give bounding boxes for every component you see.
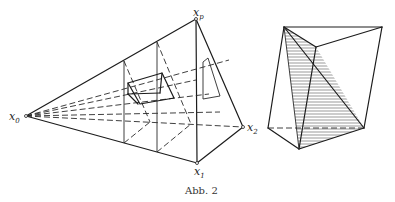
edge-x1-x2 [197, 127, 243, 163]
edge-right [364, 27, 382, 128]
label-x1: x1 [194, 165, 205, 180]
ray-2 [26, 80, 196, 116]
edge-xp-x1 [196, 19, 197, 163]
back-box [203, 58, 220, 99]
plane-2-top-hidden [157, 42, 191, 124]
plane-1-bottom-hidden [124, 122, 150, 143]
edge-section-left [284, 27, 299, 149]
plane-2-bottom-hidden [157, 124, 191, 152]
edge-bottom-left [268, 128, 299, 149]
edge-inner-vertical [299, 47, 316, 149]
figure-caption: Abb. 2 [184, 185, 218, 196]
label-x0: x0 [9, 110, 20, 125]
edge-x0-xp [26, 19, 196, 116]
label-x2: x2 [247, 121, 258, 136]
geometry-figure: x0 xp x1 x2 [0, 0, 395, 202]
edge-left [268, 27, 284, 128]
edge-inner-top-right [316, 27, 382, 47]
vertex-x2 [242, 126, 245, 129]
box-face [128, 73, 174, 104]
edge-diagonal [284, 27, 364, 128]
edge-bottom-right [299, 128, 364, 149]
left-panel-perspective-pyramid: x0 xp x1 x2 [9, 6, 258, 180]
box-edge [160, 73, 162, 93]
right-panel-polyhedron [260, 27, 390, 149]
edge-inner-top [284, 27, 316, 47]
vertex-x0 [25, 115, 28, 118]
label-xp: xp [193, 6, 204, 21]
